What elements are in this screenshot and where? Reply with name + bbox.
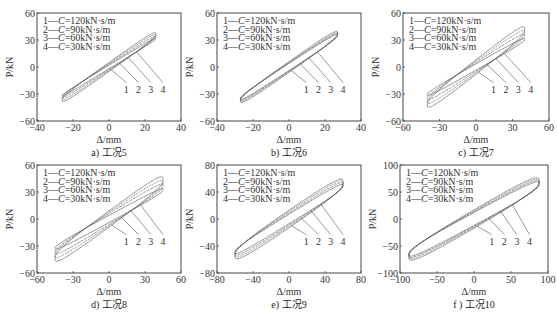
x-tick-label: 100 xyxy=(541,274,556,285)
x-tick-label: 40 xyxy=(320,274,330,285)
chart-panel-b: −40−2002040−60−3003060Δ/mmP/kNb) 工况61234… xyxy=(184,8,366,160)
legend-entry: 4—C=30kN·s/m xyxy=(406,193,474,204)
x-tick-label: −50 xyxy=(429,274,445,285)
panel-caption: c) 工况7 xyxy=(458,147,493,159)
legend: 1—C=120kN·s/m2—C=90kN·s/m3—C=60kN·s/m4—C… xyxy=(43,15,116,52)
curve-number-label: 1 xyxy=(489,236,494,247)
y-tick-label: −30 xyxy=(19,89,35,100)
y-tick-label: 0 xyxy=(393,214,398,225)
curve-number-label: 4 xyxy=(341,84,346,95)
x-tick-label: 0 xyxy=(287,274,292,285)
curve-number-label: 2 xyxy=(316,236,321,247)
chart-panel-c: −60−3003060−60−3003060Δ/mmP/kNc) 工况71234… xyxy=(370,8,554,160)
chart-panel-a: −40−2002040−60−3003060Δ/mmP/kNa) 工况51234… xyxy=(4,8,186,160)
x-tick-label: −20 xyxy=(65,122,81,133)
y-tick-label: −60 xyxy=(199,116,215,127)
y-tick-label: −50 xyxy=(382,241,398,252)
x-tick-label: 30 xyxy=(508,122,518,133)
x-tick-label: 0 xyxy=(472,274,477,285)
chart-panel-e: −80−4004080−80−4004080Δ/mmP/kNe) 工况91234… xyxy=(184,160,366,312)
y-tick-label: 60 xyxy=(205,8,215,19)
y-tick-label: −60 xyxy=(19,268,35,279)
curve-number-label: 3 xyxy=(516,84,521,95)
x-tick-label: 0 xyxy=(287,122,292,133)
legend: 1—C=120kN·s/m2—C=90kN·s/m3—C=60kN·s/m4—C… xyxy=(223,15,296,52)
y-tick-label: 30 xyxy=(25,35,35,46)
y-tick-label: 30 xyxy=(25,187,35,198)
y-tick-label: 0 xyxy=(30,214,35,225)
y-tick-label: 80 xyxy=(205,160,215,171)
x-tick-label: 20 xyxy=(320,122,330,133)
y-tick-label: −30 xyxy=(19,241,35,252)
x-axis-label: Δ/mm xyxy=(462,286,487,297)
x-tick-label: −30 xyxy=(65,274,81,285)
legend-entry: 4—C=30kN·s/m xyxy=(43,193,111,204)
curve-number-label: 4 xyxy=(527,236,532,247)
curve-number-label: 1 xyxy=(124,236,129,247)
y-tick-label: −80 xyxy=(199,268,215,279)
x-tick-label: 0 xyxy=(474,122,479,133)
y-tick-label: 60 xyxy=(25,8,35,19)
x-tick-label: 40 xyxy=(356,122,366,133)
curve-number-label: 4 xyxy=(161,84,166,95)
y-tick-label: −30 xyxy=(199,89,215,100)
y-axis-label: P/kN xyxy=(184,209,195,230)
legend-entry: 4—C=30kN·s/m xyxy=(223,41,291,52)
x-axis-label: Δ/mm xyxy=(97,286,122,297)
legend: 1—C=120kN·s/m2—C=90kN·s/m3—C=60kN·s/m4—C… xyxy=(406,167,479,204)
x-tick-label: 60 xyxy=(544,122,554,133)
y-axis-label: P/kN xyxy=(4,209,15,230)
x-axis-label: Δ/mm xyxy=(97,134,122,145)
panel-caption: f ) 工况10 xyxy=(453,299,495,311)
y-tick-label: 50 xyxy=(388,187,398,198)
curve-number-label: 1 xyxy=(304,84,309,95)
y-tick-label: 0 xyxy=(30,62,35,73)
x-tick-label: 0 xyxy=(107,274,112,285)
curve-number-label: 3 xyxy=(328,84,333,95)
y-tick-label: 0 xyxy=(210,214,215,225)
y-tick-label: −30 xyxy=(385,89,401,100)
x-tick-label: 50 xyxy=(506,274,516,285)
legend-entry: 4—C=30kN·s/m xyxy=(223,193,291,204)
x-axis-label: Δ/mm xyxy=(277,286,302,297)
y-tick-label: 60 xyxy=(391,8,401,19)
y-axis-label: P/kN xyxy=(370,57,381,78)
legend-entry: 4—C=30kN·s/m xyxy=(409,41,477,52)
y-axis-label: P/kN xyxy=(367,209,378,230)
curve-number-label: 4 xyxy=(161,236,166,247)
curve-number-label: 3 xyxy=(148,236,153,247)
hysteresis-figure: −40−2002040−60−3003060Δ/mmP/kNa) 工况51234… xyxy=(0,0,557,320)
x-axis-label: Δ/mm xyxy=(464,134,489,145)
y-tick-label: 100 xyxy=(383,160,398,171)
curve-number-label: 2 xyxy=(502,236,507,247)
curve-number-label: 2 xyxy=(136,236,141,247)
x-tick-label: −40 xyxy=(245,274,261,285)
chart-panel-d: −60−3003060−60−3003060Δ/mmP/kNd) 工况81234… xyxy=(4,160,186,312)
legend-entry: 4—C=30kN·s/m xyxy=(43,41,111,52)
y-tick-label: −60 xyxy=(385,116,401,127)
x-axis-label: Δ/mm xyxy=(277,134,302,145)
curve-number-label: 1 xyxy=(124,84,129,95)
panel-caption: a) 工况5 xyxy=(91,147,126,159)
y-tick-label: 40 xyxy=(205,187,215,198)
legend: 1—C=120kN·s/m2—C=90kN·s/m3—C=60kN·s/m4—C… xyxy=(43,167,116,204)
legend: 1—C=120kN·s/m2—C=90kN·s/m3—C=60kN·s/m4—C… xyxy=(223,167,296,204)
curve-number-label: 4 xyxy=(341,236,346,247)
y-tick-label: 0 xyxy=(396,62,401,73)
panel-caption: e) 工况9 xyxy=(271,299,306,311)
panel-caption: b) 工况6 xyxy=(271,147,307,159)
x-tick-label: −30 xyxy=(432,122,448,133)
curve-number-label: 3 xyxy=(148,84,153,95)
y-tick-label: 30 xyxy=(391,35,401,46)
legend: 1—C=120kN·s/m2—C=90kN·s/m3—C=60kN·s/m4—C… xyxy=(409,15,482,52)
chart-panel-f: −100−50050100−100−50050100Δ/mmP/kNf ) 工况… xyxy=(367,160,556,312)
curve-number-label: 3 xyxy=(328,236,333,247)
y-axis-label: P/kN xyxy=(184,57,195,78)
x-tick-label: 80 xyxy=(356,274,366,285)
y-tick-label: 0 xyxy=(210,62,215,73)
curve-number-label: 2 xyxy=(136,84,141,95)
curve-number-label: 3 xyxy=(514,236,519,247)
curve-number-label: 1 xyxy=(304,236,309,247)
x-tick-label: 20 xyxy=(140,122,150,133)
y-axis-label: P/kN xyxy=(4,57,15,78)
